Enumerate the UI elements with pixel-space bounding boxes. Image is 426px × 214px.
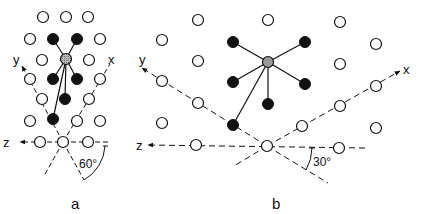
- panel-b-x-label: x: [403, 62, 410, 77]
- panel-a: 60° y x z a: [3, 12, 115, 213]
- crystal-lattice-diagram: 60° y x z a: [0, 0, 426, 214]
- panel-b-angle-arc: [306, 148, 312, 170]
- panel-a-z-label: z: [3, 135, 10, 150]
- panel-b-angle-label: 30°: [313, 155, 331, 169]
- panel-b-z-axis: [148, 145, 365, 148]
- panel-a-central-atom: [61, 54, 72, 65]
- panel-a-angle-label: 60°: [79, 157, 97, 171]
- panel-a-y-label: y: [13, 52, 20, 67]
- panel-b-filled-atoms: [228, 37, 311, 131]
- panel-b-bonds: [233, 42, 305, 125]
- panel-b-open-atoms: [157, 15, 382, 154]
- panel-b-caption: b: [272, 195, 280, 212]
- panel-b-z-label: z: [136, 138, 143, 153]
- panel-b-central-atom: [263, 57, 274, 68]
- panel-a-x-label: x: [108, 52, 115, 67]
- panel-b-y-label: y: [139, 52, 146, 67]
- panel-b-axes: [142, 68, 400, 183]
- panel-a-caption: a: [71, 195, 80, 212]
- panel-b: 30° y x z b: [136, 15, 410, 213]
